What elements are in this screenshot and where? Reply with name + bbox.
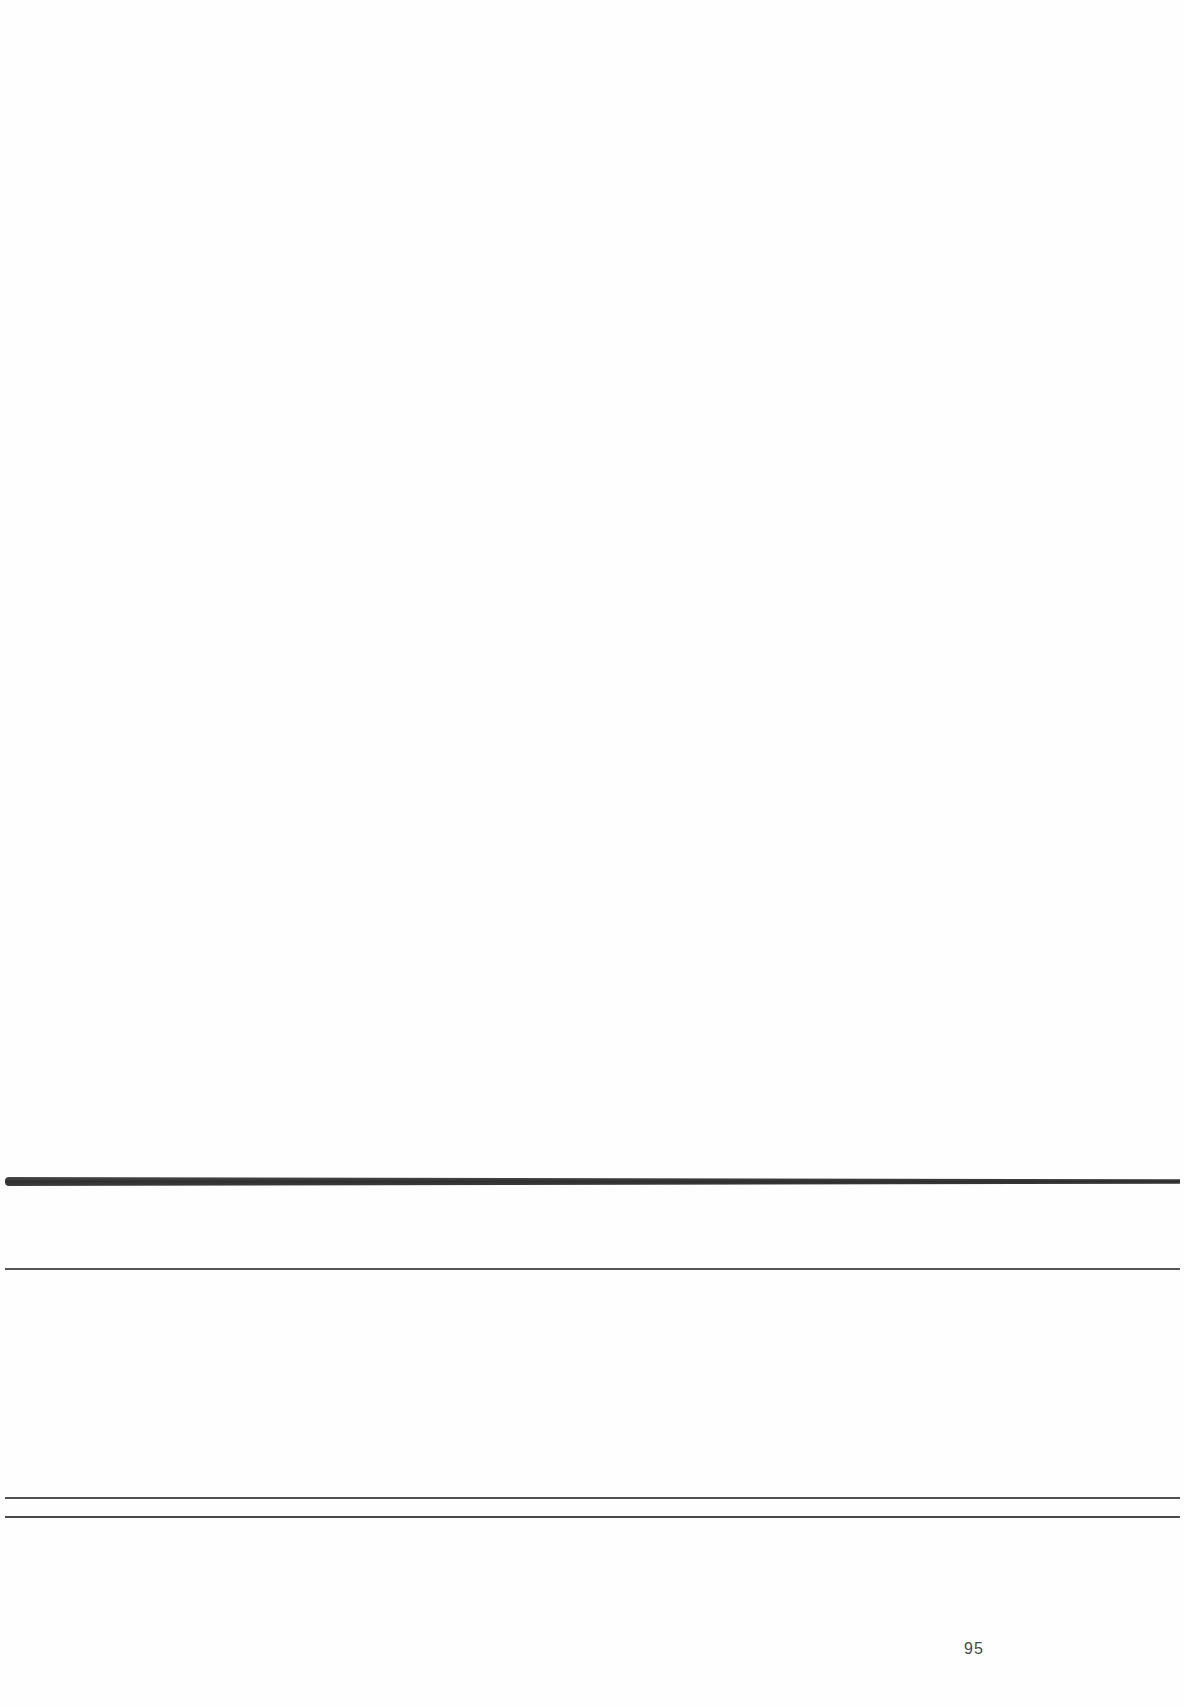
thick-horizontal-rule	[5, 1177, 1180, 1186]
thin-horizontal-rule	[5, 1268, 1180, 1270]
double-rule-bottom-line	[5, 1516, 1180, 1518]
document-page: 95	[0, 0, 1184, 1706]
page-number: 95	[964, 1640, 984, 1658]
double-rule-top-line	[5, 1497, 1180, 1499]
